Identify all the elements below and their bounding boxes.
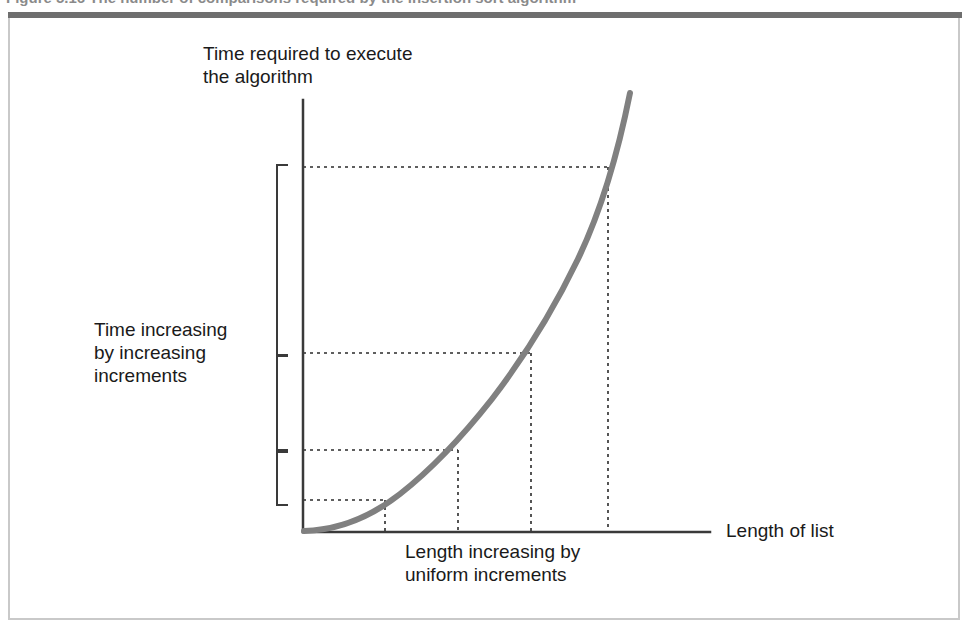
x-axis-label: Length of list	[726, 519, 834, 542]
figure-page: Figure 5.16 The number of comparisons re…	[0, 0, 970, 632]
horizontal-guide-lines	[303, 167, 608, 500]
measurement-brackets	[277, 165, 288, 505]
bracket-increment-1	[277, 452, 288, 505]
chart-axes	[303, 100, 710, 532]
bracket-group-label: Time increasing by increasing increments	[94, 318, 227, 387]
y-axis-label: Time required to execute the algorithm	[203, 42, 412, 88]
growth-curve	[304, 93, 630, 531]
bracket-increment-3	[277, 165, 288, 355]
x-axis-note-label: Length increasing by uniform increments	[405, 540, 580, 586]
bracket-increment-2	[277, 356, 288, 450]
